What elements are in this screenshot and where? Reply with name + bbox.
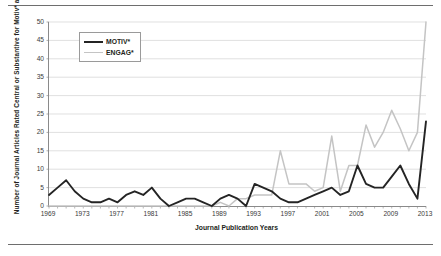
page-rule-bottom bbox=[8, 244, 433, 245]
x-axis-tick-label: 1997 bbox=[281, 210, 296, 218]
y-axis-tick-label: 50 bbox=[28, 19, 44, 26]
x-axis-tick-label: 1973 bbox=[75, 210, 90, 218]
y-axis-tick-labels: 05101520253035404550 bbox=[24, 10, 44, 242]
legend-swatch-engag-icon bbox=[84, 52, 103, 53]
y-axis-tick-label: 35 bbox=[28, 74, 44, 81]
x-axis-tick-label: 1981 bbox=[143, 210, 158, 218]
x-axis-tick-label: 2001 bbox=[315, 210, 330, 218]
x-axis-title: Journal Publication Years bbox=[48, 224, 425, 231]
chart-legend: MOTIV* ENGAG* bbox=[79, 32, 141, 62]
y-axis-tick-label: 30 bbox=[28, 92, 44, 99]
y-axis-tick-label: 20 bbox=[28, 129, 44, 136]
page-rule-top bbox=[8, 5, 433, 6]
y-axis-tick-label: 5 bbox=[28, 184, 44, 191]
y-axis-title-text: Number of Journal Articles Rated Central… bbox=[13, 18, 21, 214]
x-axis-tick-label: 2005 bbox=[349, 210, 364, 218]
x-axis-tick-label: 1969 bbox=[41, 210, 56, 218]
x-axis-tick-label: 2013 bbox=[418, 210, 433, 218]
legend-item-engag: ENGAG* bbox=[84, 47, 134, 58]
x-axis-tick-label: 1985 bbox=[178, 210, 193, 218]
legend-swatch-motiv-icon bbox=[84, 41, 103, 43]
x-axis-tick-label: 2009 bbox=[383, 210, 398, 218]
y-axis-tick-label: 25 bbox=[28, 111, 44, 118]
y-axis-tick-label: 0 bbox=[28, 203, 44, 210]
x-axis-tick-label: 1993 bbox=[246, 210, 261, 218]
x-axis-tick-label: 1977 bbox=[109, 210, 124, 218]
y-axis-tick-label: 15 bbox=[28, 147, 44, 154]
y-axis-tick-label: 40 bbox=[28, 55, 44, 62]
y-axis-tick-label: 10 bbox=[28, 166, 44, 173]
legend-label-motiv: MOTIV* bbox=[106, 38, 130, 46]
legend-label-engag: ENGAG* bbox=[106, 49, 134, 57]
legend-item-motiv: MOTIV* bbox=[84, 36, 134, 47]
chart-figure: Number of Journal Articles Rated Central… bbox=[0, 10, 441, 242]
x-axis-tick-label: 1989 bbox=[212, 210, 227, 218]
x-axis-tick-labels: 1969197319771981198519891993199720012005… bbox=[48, 210, 425, 224]
y-axis-tick-label: 45 bbox=[28, 37, 44, 44]
